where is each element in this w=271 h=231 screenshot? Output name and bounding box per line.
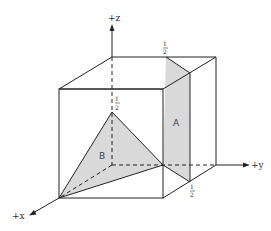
arrow-x-icon (29, 210, 37, 216)
svg-text:1: 1 (115, 95, 119, 102)
svg-text:2: 2 (163, 48, 167, 55)
fraction-top-half: 1 2 (163, 40, 168, 55)
axis-z-label: +z (108, 13, 121, 23)
arrow-z-icon (110, 24, 115, 31)
axis-x-label: +x (12, 211, 25, 221)
arrow-y-icon (243, 163, 250, 168)
svg-text:1: 1 (190, 183, 194, 190)
svg-text:1: 1 (163, 40, 167, 47)
axes (29, 24, 250, 216)
axis-y-label: +y (251, 160, 265, 170)
plane-a-label: A (173, 118, 180, 128)
plane-b-label: B (99, 151, 105, 161)
plane-b (59, 112, 163, 198)
svg-text:2: 2 (115, 104, 119, 111)
fraction-z-half: 1 2 (115, 95, 120, 111)
svg-text:2: 2 (190, 191, 194, 198)
fraction-y-half: 1 2 (190, 183, 195, 198)
unit-cell-diagram: +z +y +x A B 1 2 1 2 1 2 (0, 0, 271, 231)
axis-x (33, 198, 59, 213)
